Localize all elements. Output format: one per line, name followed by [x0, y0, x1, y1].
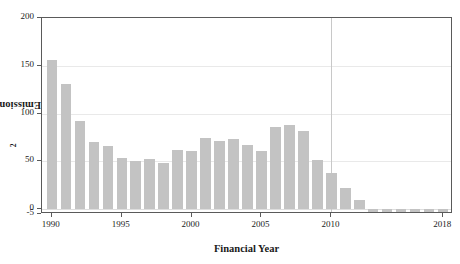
y-tick-mark — [37, 213, 41, 214]
y-axis-title: Emissions (Mt CO2-eq) — [0, 0, 22, 210]
bar — [354, 200, 364, 210]
plot-area — [41, 17, 452, 213]
x-axis-title: Financial Year — [41, 243, 452, 254]
bar — [256, 151, 266, 209]
bar — [396, 209, 406, 213]
bar — [144, 159, 154, 210]
gridline-horizontal — [42, 66, 451, 67]
bar — [186, 151, 196, 209]
x-tick-mark — [121, 213, 122, 217]
y-axis-title-text: Emissions (Mt CO2-eq) — [0, 63, 29, 147]
bar — [172, 150, 182, 209]
y-tick-mark — [37, 160, 41, 161]
bar — [89, 142, 99, 209]
y-tick-label: 200 — [0, 11, 34, 21]
y-tick-label: 100 — [0, 107, 34, 117]
x-tick-label: 2005 — [230, 219, 290, 229]
gridline-horizontal — [42, 114, 451, 115]
bar — [284, 125, 294, 209]
bar — [228, 139, 238, 209]
bar — [270, 127, 280, 209]
bar — [298, 131, 308, 209]
x-tick-mark — [260, 213, 261, 217]
x-tick-label: 1990 — [21, 219, 81, 229]
y-tick-mark — [37, 208, 41, 209]
x-tick-mark — [442, 213, 443, 217]
bar — [103, 146, 113, 209]
bar — [312, 160, 322, 210]
y-tick-label: 50 — [0, 154, 34, 164]
x-tick-label: 2018 — [412, 219, 460, 229]
bar — [214, 141, 224, 209]
bar — [75, 121, 85, 209]
y-tick-label: 0 — [0, 202, 34, 212]
y-tick-mark — [37, 65, 41, 66]
x-tick-label: 2010 — [300, 219, 360, 229]
y-tick-mark — [37, 113, 41, 114]
x-tick-mark — [191, 213, 192, 217]
bar — [410, 209, 420, 213]
bar — [158, 163, 168, 209]
bar — [424, 209, 434, 213]
y-axis-title-subscript: 2 — [9, 143, 18, 147]
bar — [438, 209, 448, 213]
x-tick-label: 1995 — [91, 219, 151, 229]
bar — [340, 188, 350, 209]
x-tick-mark — [330, 213, 331, 217]
bar — [242, 145, 252, 209]
chart-figure: Emissions (Mt CO2-eq) -5050100150200 199… — [0, 0, 460, 264]
bar — [47, 60, 57, 209]
bar — [117, 158, 127, 210]
bar — [382, 209, 392, 213]
y-tick-mark — [37, 17, 41, 18]
x-tick-mark — [51, 213, 52, 217]
bar — [61, 84, 71, 209]
x-tick-label: 2000 — [161, 219, 221, 229]
bar — [200, 138, 210, 210]
bar — [130, 161, 140, 209]
y-tick-label: 150 — [0, 59, 34, 69]
bar — [326, 173, 336, 209]
bar — [368, 209, 378, 213]
